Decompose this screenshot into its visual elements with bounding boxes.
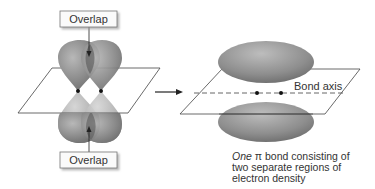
- nucleus-right: [99, 89, 103, 93]
- pi-bond: Bond axis: [180, 41, 360, 142]
- pi-lobe-bottom: [218, 102, 314, 142]
- nucleus-b: [279, 91, 283, 95]
- overlap-label-top: Overlap: [69, 13, 108, 25]
- pi-lobe-top: [218, 41, 314, 83]
- overlap-label-bottom: Overlap: [69, 154, 108, 166]
- nucleus-left: [76, 89, 80, 93]
- nucleus-a: [255, 91, 259, 95]
- bond-axis-label: Bond axis: [294, 80, 343, 92]
- pi-bond-caption: One π bond consisting of two separate re…: [232, 151, 372, 184]
- caption-line3: electron density: [232, 173, 372, 184]
- p-orbitals-overlap: Overlap Overlap: [18, 11, 160, 168]
- transform-arrow: [155, 89, 183, 95]
